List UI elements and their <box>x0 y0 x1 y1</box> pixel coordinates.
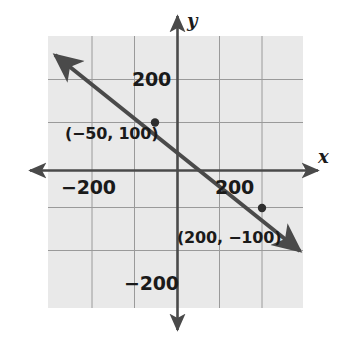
data-point-marker-2 <box>258 204 266 212</box>
x-tick-label-neg200: −200 <box>61 178 116 197</box>
coordinate-plane-figure: y x 200 −200 −200 200 (−50, 100) (200, −… <box>0 0 341 346</box>
x-tick-label-200: 200 <box>215 178 254 197</box>
x-axis-label: x <box>318 148 329 166</box>
y-tick-label-200: 200 <box>132 70 171 89</box>
y-tick-label-neg200: −200 <box>124 274 179 293</box>
y-axis-label: y <box>187 12 197 30</box>
graph-canvas <box>0 0 341 346</box>
plot-background <box>48 36 303 308</box>
point-annotation-200-neg100: (200, −100) <box>177 230 281 246</box>
point-annotation-neg50-100: (−50, 100) <box>65 126 158 142</box>
